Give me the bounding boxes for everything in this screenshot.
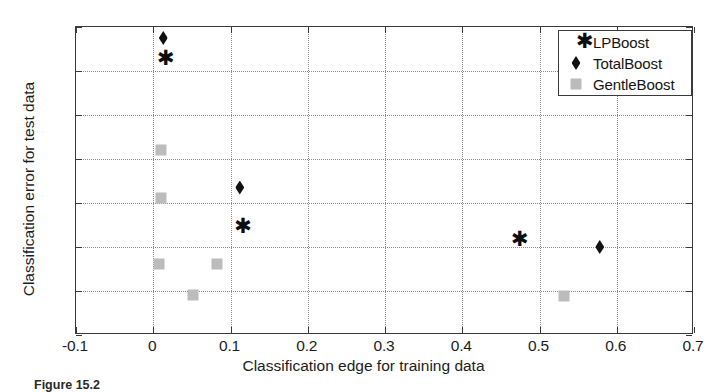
y-axis-tick — [686, 115, 692, 116]
legend-label-lpboost: LPBoost — [593, 34, 649, 51]
y-axis-tick — [76, 335, 82, 336]
data-point-gentleboost — [188, 289, 199, 300]
x-axis-tick — [462, 27, 463, 33]
legend-entry-totalboost: TotalBoost — [559, 53, 691, 74]
x-tick-label: -0.1 — [62, 337, 88, 355]
gridline-vertical — [308, 27, 309, 333]
asterisk-icon: ✱ — [559, 32, 593, 53]
x-tick-label: 0.5 — [528, 337, 549, 355]
data-point-gentleboost — [211, 258, 222, 269]
gridline-vertical — [462, 27, 463, 333]
x-tick-label: 0 — [148, 337, 156, 355]
x-axis-tick — [617, 327, 618, 333]
y-axis-label: Classification error for test data — [20, 39, 38, 339]
data-point-gentleboost — [154, 258, 165, 269]
y-axis-tick — [76, 203, 82, 204]
legend-label-gentleboost: GentleBoost — [593, 76, 674, 93]
gridline-vertical — [385, 27, 386, 333]
figure-caption: Figure 15.2 Test error versus training e… — [0, 378, 727, 392]
y-axis-tick — [686, 247, 692, 248]
y-axis-tick — [686, 335, 692, 336]
y-axis-tick — [686, 27, 692, 28]
gridline-vertical — [540, 27, 541, 333]
gridline-horizontal — [76, 115, 692, 116]
gridline-vertical — [231, 27, 232, 333]
diamond-icon — [559, 53, 593, 74]
y-axis-tick — [76, 247, 82, 248]
legend: ✱ LPBoost TotalBoost GentleBoost — [558, 30, 692, 96]
x-axis-tick — [308, 27, 309, 33]
legend-entry-gentleboost: GentleBoost — [559, 74, 691, 95]
y-axis-tick — [686, 291, 692, 292]
y-axis-tick — [686, 159, 692, 160]
x-axis-tick — [540, 327, 541, 333]
y-axis-tick — [76, 27, 82, 28]
x-tick-label: 0.2 — [296, 337, 317, 355]
data-point-gentleboost — [155, 192, 166, 203]
x-axis-tick — [231, 327, 232, 333]
caption-prefix: Figure 15.2 — [34, 378, 100, 392]
x-axis-tick — [153, 27, 154, 33]
y-axis-tick — [76, 159, 82, 160]
x-tick-label: 0.4 — [451, 337, 472, 355]
x-axis-tick — [694, 27, 695, 33]
x-axis-tick — [385, 27, 386, 33]
legend-label-totalboost: TotalBoost — [593, 55, 662, 72]
x-axis-tick — [694, 327, 695, 333]
gridline-horizontal — [76, 159, 692, 160]
y-axis-tick — [76, 71, 82, 72]
gridline-vertical — [153, 27, 154, 333]
x-axis-label: Classification edge for training data — [0, 357, 727, 375]
x-axis-tick — [540, 27, 541, 33]
x-tick-label: 0.6 — [605, 337, 626, 355]
square-icon — [559, 74, 593, 95]
x-axis-tick — [308, 327, 309, 333]
x-tick-label: 0.3 — [374, 337, 395, 355]
x-axis-tick — [231, 27, 232, 33]
legend-entry-lpboost: ✱ LPBoost — [559, 32, 691, 53]
x-tick-label: 0.1 — [219, 337, 240, 355]
x-tick-label: 0.7 — [683, 337, 704, 355]
x-axis-tick — [385, 327, 386, 333]
x-axis-tick — [76, 327, 77, 333]
x-axis-tick — [153, 327, 154, 333]
figure-scatter-plot: ✱✱✱ Classification error for test data C… — [0, 0, 727, 392]
data-point-gentleboost — [559, 291, 570, 302]
y-axis-tick — [686, 203, 692, 204]
x-axis-tick — [462, 327, 463, 333]
y-axis-tick — [76, 115, 82, 116]
y-axis-tick — [76, 291, 82, 292]
data-point-gentleboost — [155, 145, 166, 156]
gridline-horizontal — [76, 203, 692, 204]
gridline-horizontal — [76, 291, 692, 292]
